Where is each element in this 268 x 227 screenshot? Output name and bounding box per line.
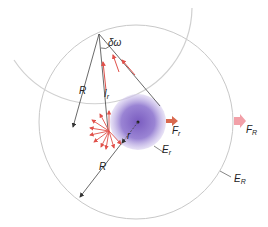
label-E-r: Er bbox=[162, 144, 172, 156]
ray bbox=[113, 55, 119, 72]
label-E-R: ER bbox=[234, 173, 246, 185]
apex-circle-arc bbox=[14, 8, 192, 104]
label-R-top: R bbox=[79, 85, 86, 96]
cone-line-left bbox=[73, 34, 99, 127]
label-I-r: Ir bbox=[104, 88, 110, 100]
label-R-bottom: R bbox=[99, 161, 106, 172]
E-R-leader bbox=[220, 171, 231, 177]
label-delta-omega: δω bbox=[108, 37, 122, 48]
diagram: δω R Ir r R Fr FR Er ER bbox=[0, 0, 268, 227]
ray bbox=[122, 60, 135, 75]
ray bbox=[103, 62, 106, 90]
label-F-R: FR bbox=[246, 124, 257, 136]
label-F-r: Fr bbox=[172, 125, 181, 137]
force-arrow-large bbox=[234, 114, 246, 128]
